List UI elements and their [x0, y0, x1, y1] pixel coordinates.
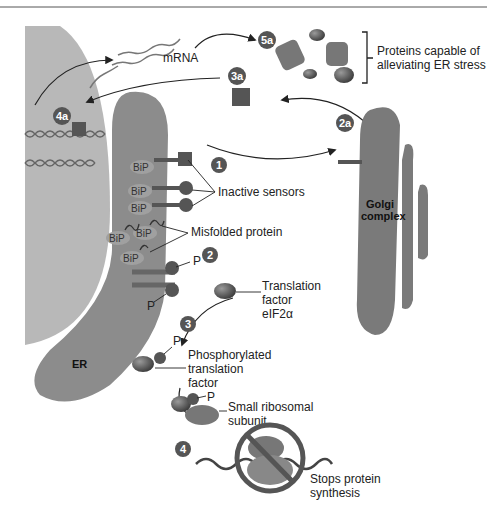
svg-text:4a: 4a [56, 110, 69, 122]
step-badge-4a: 4a [53, 107, 71, 125]
stops-label-line2: synthesis [310, 486, 360, 500]
svg-text:3a: 3a [231, 70, 244, 82]
chaperone-proteins-icon [274, 29, 354, 83]
golgi-label-line1: Golgi [366, 198, 394, 210]
svg-text:2a: 2a [339, 117, 352, 129]
phospho-label-line2: translation [188, 362, 243, 376]
step-badge-4: 4 [175, 441, 191, 457]
misfolded-protein-label: Misfolded protein [191, 225, 282, 239]
er-label: ER [72, 358, 87, 370]
stops-label-line1: Stops protein [310, 472, 381, 486]
translation-label-line1: Translation [262, 279, 321, 293]
bracket [362, 32, 373, 83]
svg-text:2: 2 [207, 249, 213, 261]
small-ribo-label-line1: Small ribosomal [228, 400, 313, 414]
step-badge-3: 3 [180, 316, 196, 332]
proteins-label-line2: alleviating ER stress [377, 58, 486, 72]
sensor-leaders [188, 160, 215, 206]
p-label-2: P [147, 299, 155, 313]
svg-text:BiP: BiP [133, 162, 149, 173]
step-badge-1: 1 [211, 157, 227, 173]
translation-label-line2: factor [262, 293, 292, 307]
svg-text:BiP: BiP [123, 253, 139, 264]
phospho-label-line3: factor [188, 376, 218, 390]
p-label-3: P [173, 334, 181, 348]
svg-text:3: 3 [185, 318, 191, 330]
svg-text:BiP: BiP [109, 233, 125, 244]
svg-text:5a: 5a [261, 34, 274, 46]
svg-text:1: 1 [216, 159, 222, 171]
eif2a-icon [214, 283, 236, 299]
transcription-factor-square [72, 122, 86, 136]
step-badge-2: 2 [202, 247, 218, 263]
upr-diagram: ER mRNA Proteins capable of alleviating … [0, 0, 487, 526]
svg-text:BiP: BiP [136, 228, 152, 239]
phospho-label-line1: Phosphorylated [188, 348, 271, 362]
inactive-sensors-label: Inactive sensors [218, 185, 305, 199]
step-badge-2a: 2a [336, 114, 354, 132]
proteins-label-line1: Proteins capable of [377, 44, 480, 58]
svg-text:BiP: BiP [131, 186, 147, 197]
step-badge-5a: 5a [258, 31, 276, 49]
translation-label-line3: eIF2α [262, 307, 293, 321]
mrna-label: mRNA [163, 51, 198, 65]
active-transcription-factor [232, 88, 250, 106]
step-badge-3a: 3a [228, 67, 246, 85]
svg-text:BiP: BiP [131, 203, 147, 214]
svg-text:4: 4 [180, 443, 187, 455]
p-label-4: P [207, 390, 215, 404]
golgi-label-line2: complex [361, 210, 407, 222]
p-label-1: P [193, 254, 201, 268]
